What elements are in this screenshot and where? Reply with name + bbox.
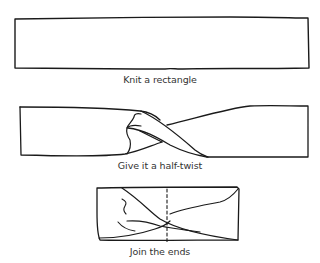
step-2-half-twist-drawing bbox=[20, 106, 308, 157]
mobius-knitting-diagram: Knit a rectangle Give it a half-twist Jo… bbox=[0, 0, 320, 263]
step-3-joined-ends-drawing bbox=[97, 187, 239, 242]
step-1-caption: Knit a rectangle bbox=[0, 74, 320, 85]
step-2-caption: Give it a half-twist bbox=[0, 160, 320, 171]
diagram-drawings bbox=[0, 0, 320, 263]
step-3-caption: Join the ends bbox=[0, 246, 320, 257]
step-1-rectangle-drawing bbox=[15, 17, 309, 69]
